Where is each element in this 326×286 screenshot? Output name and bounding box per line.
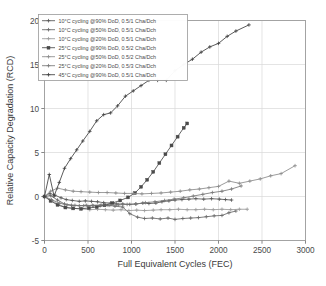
data-point-marker [111, 202, 114, 205]
data-point-marker [152, 170, 155, 173]
x-tick-label: 1000 [122, 246, 141, 255]
x-tick-label: 500 [81, 246, 95, 255]
data-point-marker [47, 46, 50, 49]
legend-item[interactable]: 45°C cycling @90% DoD, 0.5/1 Cha/Dch [42, 72, 156, 78]
y-tick-label: 10 [30, 105, 40, 114]
legend-item[interactable]: 10°C cycling @50% DoD, 0.5/1 Cha/Dch [42, 27, 156, 33]
data-series [43, 122, 189, 210]
legend-item[interactable]: 25°C cycling @20% DoD, 0.5/3 Cha/Dch [42, 63, 156, 69]
x-tick-label: 0 [42, 246, 47, 255]
x-tick-label: 2000 [209, 246, 228, 255]
data-point-marker [72, 207, 75, 210]
x-tick-label: 2500 [253, 246, 272, 255]
legend-label: 25°C cycling @20% DoD, 0.5/3 Cha/Dch [59, 63, 157, 69]
data-point-marker [182, 126, 185, 129]
legend-label: 45°C cycling @90% DoD, 0.5/1 Cha/Dch [59, 72, 157, 78]
chart-canvas: 050010001500200025003000-505101520Full E… [0, 0, 326, 286]
legend-label: 10°C cycling @20% DoD, 0.5/1 Cha/Dch [59, 36, 157, 42]
data-point-marker [146, 178, 149, 181]
data-point-marker [158, 162, 161, 165]
data-point-marker [80, 207, 83, 210]
chart-figure: 050010001500200025003000-505101520Full E… [0, 0, 326, 286]
legend-label: 10°C cycling @90% DoD, 0.5/1 Cha/Dch [59, 18, 157, 24]
legend-label: 25°C cycling @90% DoD, 0.5/2 Cha/Dch [59, 45, 157, 51]
legend: 10°C cycling @90% DoD, 0.5/1 Cha/Dch10°C… [39, 15, 188, 81]
legend-item[interactable]: 10°C cycling @90% DoD, 0.5/1 Cha/Dch [42, 18, 156, 24]
y-tick-label: 0 [34, 193, 39, 202]
y-axis-title: Relative Capacity Degradation (RCD) [5, 56, 15, 206]
data-point-marker [176, 135, 179, 138]
data-point-marker [133, 191, 136, 194]
legend-item[interactable]: 25°C cycling @90% DoD, 0.5/2 Cha/Dch [42, 45, 156, 51]
legend-item[interactable]: 10°C cycling @20% DoD, 0.5/1 Cha/Dch [42, 36, 156, 42]
data-point-marker [95, 206, 98, 209]
series-line [45, 186, 242, 206]
legend-item[interactable]: 25°C cycling @50% DoD, 0.5/2 Cha/Dch [42, 54, 156, 60]
x-tick-label: 1500 [166, 246, 185, 255]
y-tick-label: 20 [30, 17, 40, 26]
data-point-marker [119, 199, 122, 202]
x-tick-label: 3000 [296, 246, 315, 255]
y-tick-label: -5 [32, 237, 40, 246]
legend-label: 25°C cycling @50% DoD, 0.5/2 Cha/Dch [59, 54, 157, 60]
chart-svg: 050010001500200025003000-505101520Full E… [0, 0, 326, 286]
data-point-marker [164, 153, 167, 156]
data-point-marker [186, 122, 189, 125]
x-axis-title: Full Equivalent Cycles (FEC) [117, 259, 232, 269]
legend-label: 10°C cycling @50% DoD, 0.5/1 Cha/Dch [59, 27, 157, 33]
data-point-marker [140, 185, 143, 188]
y-tick-label: 15 [30, 61, 40, 70]
data-series [43, 164, 297, 198]
data-point-marker [56, 203, 59, 206]
data-point-marker [127, 196, 130, 199]
data-point-marker [87, 206, 90, 209]
y-tick-label: 5 [34, 149, 39, 158]
data-point-marker [64, 206, 67, 209]
data-point-marker [170, 144, 173, 147]
